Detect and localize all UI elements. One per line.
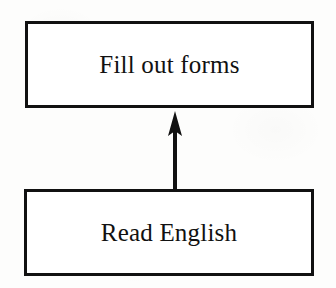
- edge-read-english-to-fill-out-forms[interactable]: [168, 111, 182, 190]
- node-read-english[interactable]: Read English: [24, 189, 314, 276]
- diagram-canvas: Fill out forms Read English: [0, 0, 336, 288]
- node-read-english-label: Read English: [101, 220, 237, 245]
